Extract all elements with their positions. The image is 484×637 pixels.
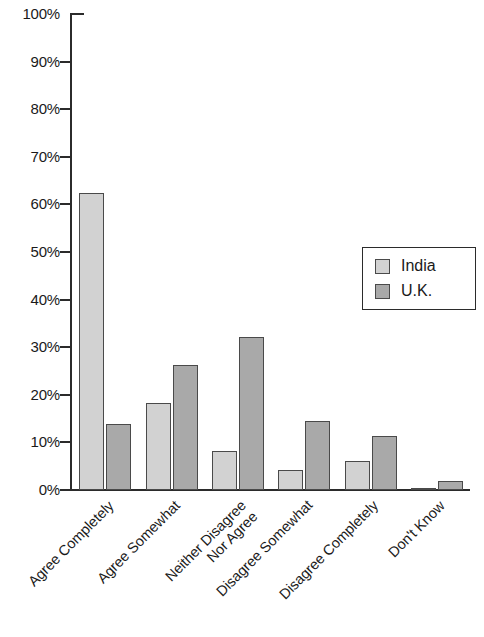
bar-india-1 [146, 403, 171, 490]
x-axis-labels: Agree CompletelyAgree SomewhatNeither Di… [0, 491, 484, 637]
bar-uk-3 [305, 421, 330, 490]
legend-swatch-uk [375, 284, 390, 299]
y-axis-tick-label: 10% [4, 434, 60, 449]
y-axis-tick-label: 60% [4, 196, 60, 211]
y-axis-tick-label: 100% [4, 6, 60, 21]
y-axis-tick-label: 40% [4, 292, 60, 307]
legend-label-uk: U.K. [401, 283, 432, 299]
legend-item-india: India [375, 255, 436, 277]
y-axis-tick-label: 50% [4, 244, 60, 259]
y-axis-tick-label: 80% [4, 101, 60, 116]
bar-india-4 [345, 461, 370, 491]
bar-uk-0 [106, 424, 131, 490]
bar-uk-5 [438, 481, 463, 490]
bar-uk-1 [173, 365, 198, 490]
bar-india-3 [278, 470, 303, 490]
bar-chart: 0%10%20%30%40%50%60%70%80%90%100% India … [0, 0, 484, 637]
y-axis-tick-label: 20% [4, 387, 60, 402]
y-axis-tick-label: 30% [4, 339, 60, 354]
chart-legend: India U.K. [362, 247, 476, 310]
bar-india-5 [411, 488, 436, 491]
bar-india-0 [79, 193, 104, 491]
bar-uk-4 [372, 436, 397, 490]
y-axis-labels: 0%10%20%30%40%50%60%70%80%90%100% [0, 0, 60, 491]
x-axis-label-line: Don't Know [385, 497, 448, 560]
y-axis-tick-label: 70% [4, 149, 60, 164]
legend-swatch-india [375, 259, 390, 274]
legend-item-uk: U.K. [375, 280, 432, 302]
bar-uk-2 [239, 337, 264, 490]
x-axis-label: Don't Know [385, 497, 448, 560]
y-axis-tick-label: 90% [4, 54, 60, 69]
bar-india-2 [212, 451, 237, 490]
legend-label-india: India [401, 258, 436, 274]
